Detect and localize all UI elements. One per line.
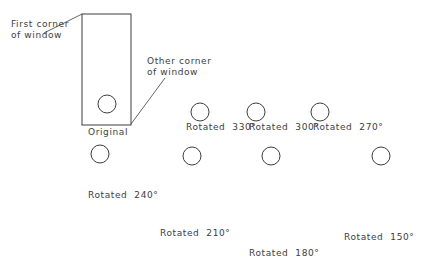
arrow-tail-circle-rot150 — [372, 147, 390, 165]
window-rect — [82, 14, 131, 125]
arrow-tail-circle-original — [98, 95, 116, 113]
arrow-tail-circle-rot240 — [91, 145, 109, 163]
shape-label-rot150: Rotated 150° — [344, 232, 414, 243]
shape-label-rot300: Rotated 300° — [249, 122, 319, 133]
annotation-first-corner: First corner of window — [11, 19, 69, 41]
arrow-tail-circle-rot330 — [191, 103, 209, 121]
annotation-other-corner: Other corner of window — [147, 56, 212, 78]
arrow-tail-circle-rot180 — [262, 147, 280, 165]
shape-label-rot210: Rotated 210° — [160, 228, 230, 239]
shape-label-rot240: Rotated 240° — [88, 190, 158, 201]
shape-label-rot180: Rotated 180° — [249, 248, 319, 259]
shape-label-original: Original — [88, 127, 128, 138]
shape-label-rot330: Rotated 330° — [186, 122, 256, 133]
arrow-tail-circle-rot210 — [183, 147, 201, 165]
arrow-tail-circle-rot270 — [311, 103, 329, 121]
shape-label-rot270: Rotated 270° — [313, 122, 383, 133]
leader-other-corner — [131, 78, 165, 124]
diagram-canvas: First corner of window Other corner of w… — [0, 0, 432, 275]
arrow-tail-circle-rot300 — [247, 103, 265, 121]
